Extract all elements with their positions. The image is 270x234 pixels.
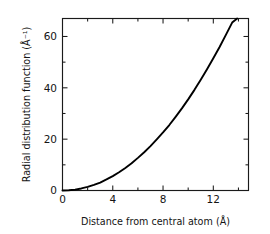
y-axis-title: Radial distribution function (Å⁻¹) bbox=[20, 27, 32, 183]
y-tick-label: 60 bbox=[44, 30, 57, 42]
x-axis-title: Distance from central atom (Å) bbox=[81, 215, 230, 227]
y-tick-label: 0 bbox=[50, 184, 57, 196]
y-tick-label: 40 bbox=[44, 82, 57, 94]
chart-background bbox=[0, 0, 270, 234]
x-tick-label: 12 bbox=[207, 193, 220, 205]
radial-distribution-chart: 04812 0204060 Distance from central atom… bbox=[0, 0, 270, 234]
chart-figure: 04812 0204060 Distance from central atom… bbox=[0, 0, 270, 234]
x-tick-label: 4 bbox=[109, 193, 116, 205]
y-tick-label: 20 bbox=[44, 133, 57, 145]
x-tick-label: 0 bbox=[59, 193, 66, 205]
x-tick-label: 8 bbox=[160, 193, 167, 205]
